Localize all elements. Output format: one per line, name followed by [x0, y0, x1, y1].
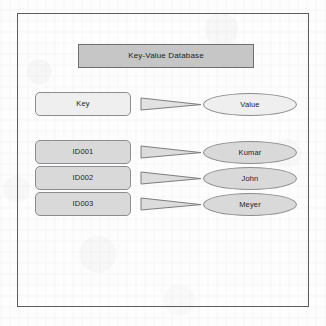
row-key-box: ID002	[35, 166, 131, 190]
data-row: ID001 Kumar	[35, 140, 297, 164]
header-key-label: Key	[76, 100, 89, 108]
arrow-right-triangle-icon	[140, 170, 202, 186]
row-value-ellipse: John	[203, 167, 297, 190]
data-row: ID003 Meyer	[35, 192, 297, 216]
row-key-box: ID003	[35, 192, 131, 216]
header-value-ellipse: Value	[203, 93, 297, 116]
row-value-label: Meyer	[239, 201, 261, 209]
diagram-canvas: Key-Value Database Key Value ID001 Kumar	[0, 0, 326, 326]
header-key-box: Key	[35, 92, 131, 116]
row-value-ellipse: Meyer	[203, 193, 297, 216]
row-value-label: John	[242, 175, 259, 183]
row-key-box: ID001	[35, 140, 131, 164]
arrow-right-triangle-icon	[140, 144, 202, 160]
data-row: ID002 John	[35, 166, 297, 190]
header-value-label: Value	[240, 101, 259, 109]
diagram-title-banner: Key-Value Database	[78, 44, 254, 68]
row-key-label: ID003	[73, 200, 94, 208]
diagram-title-label: Key-Value Database	[128, 52, 204, 60]
row-key-label: ID002	[73, 174, 94, 182]
row-value-ellipse: Kumar	[203, 141, 297, 164]
row-value-label: Kumar	[239, 149, 262, 157]
row-key-label: ID001	[73, 148, 94, 156]
arrow-right-triangle-icon	[140, 196, 202, 212]
arrow-right-triangle-icon	[140, 96, 202, 112]
header-row: Key Value	[35, 92, 297, 116]
